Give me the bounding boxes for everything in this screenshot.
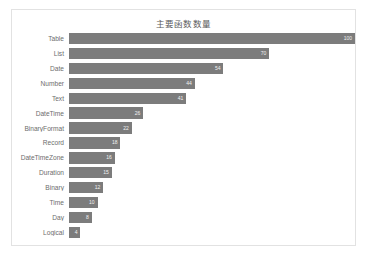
bar-track: 12 bbox=[69, 181, 355, 194]
bar-track: 41 bbox=[69, 92, 355, 105]
bar-track: 100 bbox=[69, 32, 355, 45]
bar[interactable]: 18 bbox=[69, 137, 120, 148]
bar[interactable]: 10 bbox=[69, 197, 98, 208]
bar-row: DateTimeZone16 bbox=[12, 151, 355, 164]
bar[interactable]: 41 bbox=[69, 93, 186, 104]
category-label: Date bbox=[12, 65, 69, 72]
bar-track: 10 bbox=[69, 196, 355, 209]
bar-row: Date54 bbox=[12, 62, 355, 75]
bar-value-label: 4 bbox=[75, 230, 78, 235]
category-label: Number bbox=[12, 80, 69, 87]
bar[interactable]: 70 bbox=[69, 48, 269, 59]
bar-value-label: 10 bbox=[89, 200, 95, 205]
category-label: Binary bbox=[12, 184, 69, 191]
bar-value-label: 54 bbox=[215, 66, 221, 71]
category-label: List bbox=[12, 50, 69, 57]
category-label: Logical bbox=[12, 229, 69, 236]
bar[interactable]: 8 bbox=[69, 212, 92, 223]
bar-row: Day8 bbox=[12, 211, 355, 224]
bar-value-label: 12 bbox=[95, 185, 101, 190]
category-label: Time bbox=[12, 199, 69, 206]
bar-track: 15 bbox=[69, 166, 355, 179]
bar-value-label: 16 bbox=[106, 155, 112, 160]
bar-value-label: 15 bbox=[103, 170, 109, 175]
bar-row: Logical4 bbox=[12, 226, 355, 239]
chart-card: 主要函数数量 Table100List70Date54Number44Text4… bbox=[11, 9, 356, 246]
bar-track: 4 bbox=[69, 226, 355, 239]
bar-row: Binary12 bbox=[12, 181, 355, 194]
bar-value-label: 22 bbox=[123, 126, 129, 131]
bar[interactable]: 44 bbox=[69, 78, 195, 89]
bar[interactable]: 16 bbox=[69, 152, 115, 163]
bar-value-label: 26 bbox=[135, 111, 141, 116]
bar[interactable]: 22 bbox=[69, 122, 132, 133]
bar-row: Time10 bbox=[12, 196, 355, 209]
plot-area: Table100List70Date54Number44Text41DateTi… bbox=[12, 32, 355, 239]
bar-track: 44 bbox=[69, 77, 355, 90]
bar-track: 8 bbox=[69, 211, 355, 224]
bar-row: Record18 bbox=[12, 136, 355, 149]
bar-value-label: 8 bbox=[86, 215, 89, 220]
category-label: BinaryFormat bbox=[12, 125, 69, 132]
bar[interactable]: 12 bbox=[69, 182, 103, 193]
bar-track: 54 bbox=[69, 62, 355, 75]
bar-row: Table100 bbox=[12, 32, 355, 45]
bar-row: List70 bbox=[12, 47, 355, 60]
bar[interactable]: 15 bbox=[69, 167, 112, 178]
bar[interactable]: 54 bbox=[69, 63, 223, 74]
bar-track: 26 bbox=[69, 107, 355, 120]
category-label: Duration bbox=[12, 169, 69, 176]
bar-value-label: 70 bbox=[261, 51, 267, 56]
bar[interactable]: 100 bbox=[69, 33, 355, 44]
category-label: DateTime bbox=[12, 110, 69, 117]
bar-track: 16 bbox=[69, 151, 355, 164]
chart-title: 主要函数数量 bbox=[12, 17, 355, 29]
category-label: Text bbox=[12, 95, 69, 102]
bar-track: 18 bbox=[69, 136, 355, 149]
bar-track: 22 bbox=[69, 121, 355, 134]
bar[interactable]: 4 bbox=[69, 227, 80, 238]
category-label: Record bbox=[12, 139, 69, 146]
bar-track: 70 bbox=[69, 47, 355, 60]
bar-value-label: 41 bbox=[178, 96, 184, 101]
category-label: DateTimeZone bbox=[12, 154, 69, 161]
bar-value-label: 18 bbox=[112, 140, 118, 145]
bar-row: BinaryFormat22 bbox=[12, 121, 355, 134]
bar-row: Duration15 bbox=[12, 166, 355, 179]
bar-row: Number44 bbox=[12, 77, 355, 90]
bar-row: Text41 bbox=[12, 92, 355, 105]
bar[interactable]: 26 bbox=[69, 107, 143, 118]
category-label: Table bbox=[12, 35, 69, 42]
bar-value-label: 100 bbox=[344, 36, 352, 41]
bar-value-label: 44 bbox=[186, 81, 192, 86]
category-label: Day bbox=[12, 214, 69, 221]
bar-row: DateTime26 bbox=[12, 107, 355, 120]
